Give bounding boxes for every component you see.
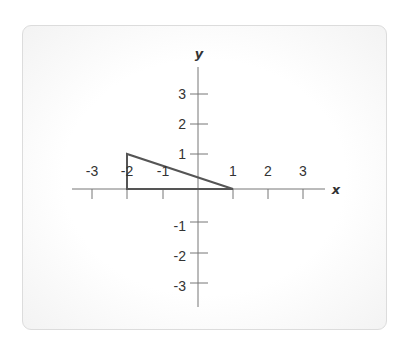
y-tick-label: -1	[174, 218, 187, 234]
x-tick-label: 1	[229, 163, 237, 179]
x-tick-label: 3	[299, 163, 307, 179]
y-tick-label: -2	[174, 248, 187, 264]
x-axis-label: x	[331, 182, 341, 197]
x-tick-label: -2	[121, 163, 134, 179]
y-tick-label: 3	[178, 86, 186, 102]
y-tick-label: -3	[174, 278, 187, 294]
y-tick-label: 1	[178, 146, 186, 162]
x-tick-label: -3	[86, 163, 99, 179]
x-tick-label: 2	[264, 163, 272, 179]
y-axis-label: y	[195, 46, 204, 61]
y-tick-label: 2	[178, 116, 186, 132]
x-tick-label: -1	[157, 163, 170, 179]
coordinate-plane: -3 -2 -1 1 2 3 3 2 1 -1 -2 -3 x y	[0, 0, 405, 349]
